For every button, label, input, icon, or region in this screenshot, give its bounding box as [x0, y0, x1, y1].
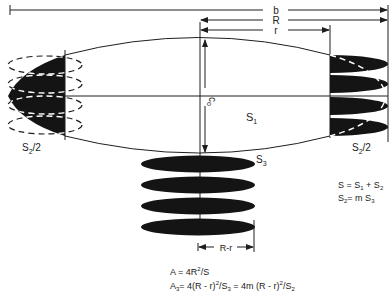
S3-ellipse-stack [141, 156, 255, 236]
S3-label: S3 [256, 154, 267, 167]
equation-aspect-ratio: A = 4R2/S [170, 266, 209, 277]
S3-ellipse [141, 177, 255, 194]
dimension-R: R [201, 15, 387, 26]
wing-planform-diagram: b R r [0, 0, 392, 298]
equation-S-total: S = S1 + S2 [338, 180, 384, 191]
equation-A3: A3= 4(R - r)2/S3 = 4m (R - r)2/S2 [170, 280, 295, 292]
S2-left-label: S2/2 [22, 142, 41, 155]
S3-ellipse [141, 156, 255, 173]
c0-label: co [206, 97, 218, 106]
equations-right: S = S1 + S2 S2= m S3 [338, 180, 384, 204]
S3-ellipse [141, 198, 255, 215]
dimension-r-label: r [274, 25, 278, 36]
equations-bottom: A = 4R2/S A3= 4(R - r)2/S3 = 4m (R - r)2… [170, 266, 295, 292]
S1-label: S1 [246, 111, 257, 125]
S2-right-label: S2/2 [352, 142, 371, 155]
S3-ellipse [141, 219, 255, 236]
equation-S2-mS3: S2= m S3 [338, 193, 375, 204]
R-minus-r-label: R-r [220, 243, 233, 253]
